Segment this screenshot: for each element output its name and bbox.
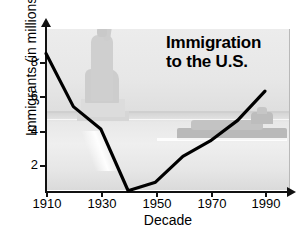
y-tick-mark-8 xyxy=(40,62,47,64)
x-tick-label-1930: 1930 xyxy=(79,196,125,211)
ship-wake xyxy=(51,131,147,171)
y-axis-arrow-icon xyxy=(41,18,51,27)
x-tick-label-1990: 1990 xyxy=(243,196,289,211)
chart-title-line1: Immigration xyxy=(166,33,261,52)
x-axis-line xyxy=(45,191,291,193)
y-tick-label-2: 2 xyxy=(31,157,38,172)
statue-of-liberty-icon xyxy=(81,29,125,127)
chart-title: Immigration to the U.S. xyxy=(166,33,294,71)
y-tick-mark-6 xyxy=(40,96,47,98)
y-tick-mark-4 xyxy=(40,131,47,133)
y-axis-line xyxy=(45,26,47,193)
ship-icon xyxy=(177,114,287,144)
y-axis-label: Immigrants (in millions) xyxy=(23,0,39,144)
y-tick-mark-2 xyxy=(40,165,47,167)
chart-title-line2: to the U.S. xyxy=(166,52,294,71)
x-tick-label-1910: 1910 xyxy=(24,196,70,211)
immigration-line-chart: Immigration to the U.S. 8 6 4 2 1910 193… xyxy=(0,0,302,233)
x-tick-label-1950: 1950 xyxy=(134,196,180,211)
x-tick-label-1970: 1970 xyxy=(189,196,235,211)
x-axis-label: Decade xyxy=(47,212,289,228)
